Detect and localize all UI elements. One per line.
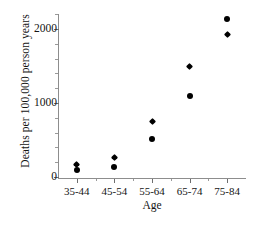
x-tick-major [227, 179, 228, 183]
data-point [149, 136, 155, 142]
x-tick-label: 75-84 [205, 185, 249, 197]
plot-area [58, 14, 246, 178]
data-point [224, 31, 231, 38]
scatter-chart-figure: Deaths per 100,000 person years 01000200… [0, 0, 254, 226]
data-point [74, 167, 80, 173]
x-tick-minor [133, 179, 134, 181]
y-tick-label: 1000 [17, 97, 57, 109]
x-tick-minor [171, 179, 172, 181]
y-tick-label: 2000 [17, 23, 57, 35]
data-point [111, 154, 118, 161]
data-point [148, 118, 155, 125]
data-point [224, 16, 230, 22]
data-point [186, 63, 193, 70]
data-point [111, 164, 117, 170]
x-tick-major [114, 179, 115, 183]
x-tick-major [190, 179, 191, 183]
y-tick-label: 0 [17, 171, 57, 183]
data-point [187, 93, 193, 99]
x-tick-major [77, 179, 78, 183]
x-tick-minor [96, 179, 97, 181]
x-axis-title: Age [58, 199, 246, 212]
x-tick-major [152, 179, 153, 183]
x-tick-minor [208, 179, 209, 181]
